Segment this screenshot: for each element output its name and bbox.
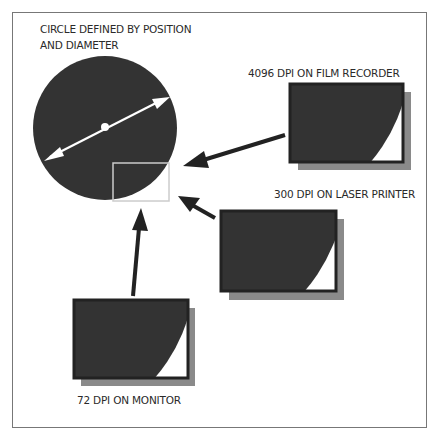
diagram-canvas xyxy=(0,0,438,439)
arrow-from-film-icon xyxy=(183,135,285,168)
arrow-from-monitor-icon xyxy=(132,208,148,296)
arrow-from-laser-icon xyxy=(178,196,215,218)
